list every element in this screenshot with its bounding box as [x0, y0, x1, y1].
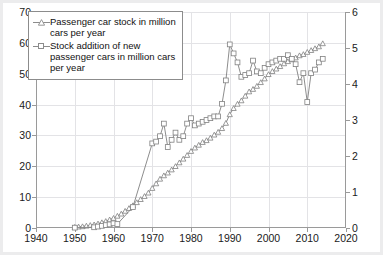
- tick-y-right: [346, 156, 350, 157]
- tick-y-right: [346, 84, 350, 85]
- x-tick-label: 1950: [63, 233, 86, 244]
- tick-x: [230, 228, 231, 232]
- x-tick-label: 2020: [334, 233, 357, 244]
- data-point-triangle: [227, 112, 232, 117]
- data-point-square: [258, 71, 263, 76]
- data-point-square: [130, 205, 135, 210]
- chart-container: 010203040506070 0123456 1940195019601970…: [0, 0, 383, 255]
- legend-label-stock: Passenger car stock in million cars per …: [50, 16, 178, 38]
- x-tick-label: 1970: [141, 233, 164, 244]
- chart-legend: Passenger car stock in million cars per …: [28, 11, 183, 80]
- tick-x: [152, 228, 153, 232]
- y-right-tick-label: 3: [352, 115, 358, 126]
- data-point-square: [301, 71, 306, 76]
- y-left-tick-label: 40: [19, 99, 31, 110]
- data-point-square: [216, 114, 221, 119]
- data-point-triangle: [223, 120, 228, 125]
- data-point-square: [231, 51, 236, 56]
- triangle-glyph: [38, 19, 45, 26]
- data-point-square: [185, 121, 190, 126]
- tick-x: [307, 228, 308, 232]
- x-tick-label: 1990: [218, 233, 241, 244]
- data-point-square: [189, 116, 194, 121]
- x-tick-label: 1960: [102, 233, 125, 244]
- tick-y-right: [346, 12, 350, 13]
- data-point-square: [158, 134, 163, 139]
- legend-label-addition: Stock addition of new passenger cars in …: [50, 40, 178, 73]
- data-point-square: [305, 100, 310, 105]
- legend-item-addition: Stock addition of new passenger cars in …: [33, 40, 178, 73]
- x-tick-label: 1940: [24, 233, 47, 244]
- data-point-square: [227, 42, 232, 47]
- tick-y-right: [346, 48, 350, 49]
- x-tick-label: 2010: [296, 233, 319, 244]
- y-right-tick-label: 1: [352, 187, 358, 198]
- data-point-square: [235, 60, 240, 65]
- y-left-tick-label: 20: [19, 161, 31, 172]
- tick-x: [269, 228, 270, 232]
- data-point-square: [293, 62, 298, 67]
- data-point-square: [173, 130, 178, 135]
- data-point-square: [320, 56, 325, 61]
- triangle-marker-icon: [33, 17, 50, 28]
- tick-x: [114, 228, 115, 232]
- data-point-square: [169, 137, 174, 142]
- y-right-tick-label: 5: [352, 43, 358, 54]
- tick-y-right: [346, 120, 350, 121]
- data-point-square: [181, 134, 186, 139]
- tick-x: [191, 228, 192, 232]
- y-axis-right-labels: 0123456: [352, 12, 382, 228]
- data-point-square: [165, 145, 170, 150]
- data-point-square: [72, 225, 77, 230]
- data-point-square: [247, 71, 252, 76]
- tick-y-right: [346, 192, 350, 193]
- x-tick-label: 2000: [257, 233, 280, 244]
- data-point-square: [154, 139, 159, 144]
- square-marker-icon: [33, 41, 50, 52]
- y-right-tick-label: 2: [352, 151, 358, 162]
- data-point-square: [297, 80, 302, 85]
- x-tick-label: 1980: [179, 233, 202, 244]
- y-axis-left-labels: 010203040506070: [0, 12, 31, 228]
- data-point-square: [115, 222, 120, 227]
- tick-x: [36, 228, 37, 232]
- tick-x: [346, 228, 347, 232]
- y-left-tick-label: 10: [19, 192, 31, 203]
- data-point-triangle: [320, 41, 325, 46]
- y-right-tick-label: 4: [352, 79, 358, 90]
- data-point-square: [289, 56, 294, 61]
- data-point-square: [251, 58, 256, 63]
- y-left-tick-label: 30: [19, 130, 31, 141]
- data-point-square: [161, 121, 166, 126]
- y-right-tick-label: 6: [352, 7, 358, 18]
- x-axis-labels: 194019501960197019801990200020102020: [36, 233, 346, 249]
- data-point-square: [223, 78, 228, 83]
- data-point-square: [220, 101, 225, 106]
- data-point-square: [313, 67, 318, 72]
- legend-item-stock: Passenger car stock in million cars per …: [33, 16, 178, 38]
